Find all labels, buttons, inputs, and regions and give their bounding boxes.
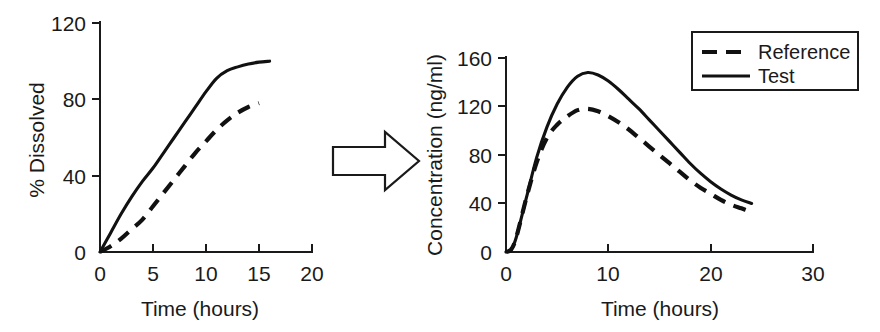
right-x-label-30: 30	[801, 262, 824, 285]
concentration-chart-svg: 160 120 80 40 0 0 10 20 30 Time (hours) …	[420, 0, 880, 332]
left-x-label-15: 15	[247, 262, 270, 285]
left-y-label-120: 120	[51, 12, 86, 35]
right-y-label-160: 160	[457, 47, 492, 70]
left-x-label-5: 5	[147, 262, 159, 285]
dissolution-chart-svg: 120 80 40 0 0 5 10 15 20 Time (hours) % …	[0, 0, 330, 332]
right-series-test	[506, 73, 752, 252]
legend: Reference Test	[692, 32, 858, 90]
left-y-label-40: 40	[63, 165, 86, 188]
right-arrow-icon	[330, 128, 422, 194]
right-series-reference	[506, 109, 752, 252]
right-y-label-120: 120	[457, 95, 492, 118]
dissolution-chart-panel: 120 80 40 0 0 5 10 15 20 Time (hours) % …	[0, 0, 330, 332]
left-y-label-0: 0	[74, 241, 86, 264]
left-y-label-80: 80	[63, 88, 86, 111]
right-x-label-0: 0	[500, 262, 512, 285]
right-y-label-40: 40	[469, 192, 492, 215]
left-series-test	[100, 61, 270, 252]
left-x-axis-title: Time (hours)	[141, 297, 259, 320]
legend-label-reference: Reference	[758, 41, 850, 63]
transition-arrow	[330, 128, 422, 194]
two-panel-pk-figure: 120 80 40 0 0 5 10 15 20 Time (hours) % …	[0, 0, 880, 332]
right-x-label-10: 10	[596, 262, 619, 285]
right-x-label-20: 20	[699, 262, 722, 285]
right-y-label-0: 0	[480, 241, 492, 264]
left-x-label-20: 20	[300, 262, 323, 285]
right-x-axis-title: Time (hours)	[601, 297, 719, 320]
concentration-chart-panel: 160 120 80 40 0 0 10 20 30 Time (hours) …	[420, 0, 880, 332]
legend-label-test: Test	[758, 65, 795, 87]
right-y-label-80: 80	[469, 144, 492, 167]
left-series-reference	[100, 103, 259, 252]
left-x-label-0: 0	[94, 262, 106, 285]
left-x-label-10: 10	[194, 262, 217, 285]
left-y-axis-title: % Dissolved	[25, 82, 48, 198]
right-y-axis-title: Concentration (ng/ml)	[423, 54, 446, 256]
